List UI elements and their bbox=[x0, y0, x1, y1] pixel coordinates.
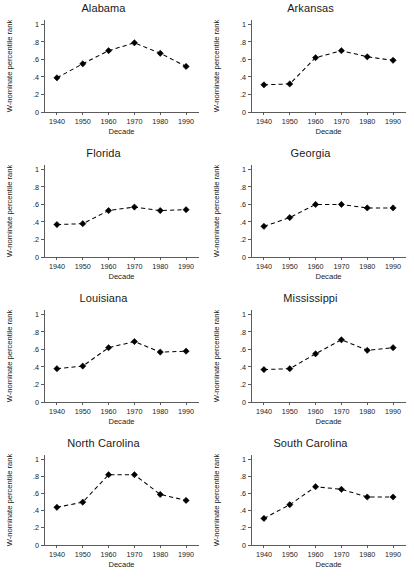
series-line bbox=[57, 207, 186, 225]
chart-panel: South Carolina0.2.4.6.811940195019601970… bbox=[207, 435, 414, 578]
y-tick-label: .6 bbox=[33, 55, 39, 64]
x-tick-label: 1960 bbox=[308, 262, 324, 271]
data-point-marker bbox=[338, 486, 344, 492]
data-point-marker bbox=[80, 221, 86, 227]
y-tick-label: 1 bbox=[35, 165, 39, 174]
x-tick-label: 1960 bbox=[101, 262, 117, 271]
y-tick-label: .4 bbox=[240, 218, 246, 227]
y-tick-label: .8 bbox=[33, 183, 39, 192]
x-tick-label: 1950 bbox=[75, 550, 91, 559]
y-tick-label: .6 bbox=[240, 55, 246, 64]
y-tick-label: .8 bbox=[33, 472, 39, 481]
y-axis-label: W-nominate percentile rank bbox=[5, 309, 14, 402]
y-tick-label: .6 bbox=[33, 200, 39, 209]
y-tick-label: 1 bbox=[35, 310, 39, 319]
series-line bbox=[264, 51, 393, 85]
x-tick-label: 1950 bbox=[282, 262, 298, 271]
x-tick-label: 1940 bbox=[256, 407, 272, 416]
plot-area: 0.2.4.6.81194019501960197019801990Decade… bbox=[0, 0, 207, 145]
y-tick-label: 1 bbox=[242, 310, 246, 319]
data-point-marker bbox=[183, 63, 189, 69]
chart-panel: Florida0.2.4.6.8119401950196019701980199… bbox=[0, 145, 207, 290]
data-point-marker bbox=[364, 494, 370, 500]
x-tick-label: 1970 bbox=[126, 117, 142, 126]
y-tick-label: .6 bbox=[33, 345, 39, 354]
data-point-marker bbox=[131, 204, 137, 210]
y-tick-label: .4 bbox=[240, 73, 246, 82]
x-tick-label: 1980 bbox=[359, 407, 375, 416]
data-point-marker bbox=[131, 472, 137, 478]
y-tick-label: .8 bbox=[33, 38, 39, 47]
series-line bbox=[264, 204, 393, 226]
x-axis-label: Decade bbox=[108, 127, 134, 136]
data-point-marker bbox=[80, 363, 86, 369]
x-tick-label: 1950 bbox=[282, 117, 298, 126]
x-tick-label: 1970 bbox=[333, 407, 349, 416]
plot-area: 0.2.4.6.81194019501960197019801990Decade… bbox=[0, 435, 207, 578]
y-tick-label: .4 bbox=[240, 506, 246, 515]
y-tick-label: 1 bbox=[242, 20, 246, 29]
y-axis-label: W-nominate percentile rank bbox=[212, 453, 221, 546]
data-point-marker bbox=[261, 82, 267, 88]
series-line bbox=[57, 475, 186, 508]
data-point-marker bbox=[54, 366, 60, 372]
x-tick-label: 1970 bbox=[126, 262, 142, 271]
x-tick-label: 1960 bbox=[308, 407, 324, 416]
series-line bbox=[57, 43, 186, 78]
x-axis-label: Decade bbox=[108, 560, 134, 569]
chart-panel: North Carolina0.2.4.6.811940195019601970… bbox=[0, 435, 207, 578]
x-tick-label: 1990 bbox=[178, 117, 194, 126]
y-axis-label: W-nominate percentile rank bbox=[5, 164, 14, 257]
series-line bbox=[264, 340, 393, 370]
data-point-marker bbox=[80, 61, 86, 67]
y-tick-label: .8 bbox=[240, 183, 246, 192]
data-point-marker bbox=[338, 337, 344, 343]
data-point-marker bbox=[364, 205, 370, 211]
plot-area: 0.2.4.6.81194019501960197019801990Decade… bbox=[207, 290, 414, 435]
y-tick-label: 1 bbox=[35, 455, 39, 464]
small-multiples-figure: Alabama0.2.4.6.8119401950196019701980199… bbox=[0, 0, 414, 578]
x-tick-label: 1960 bbox=[101, 550, 117, 559]
y-tick-label: .4 bbox=[33, 506, 39, 515]
chart-panel: Alabama0.2.4.6.8119401950196019701980199… bbox=[0, 0, 207, 145]
x-tick-label: 1940 bbox=[49, 407, 65, 416]
y-tick-label: 1 bbox=[35, 20, 39, 29]
y-tick-label: .2 bbox=[33, 90, 39, 99]
y-tick-label: 0 bbox=[35, 541, 39, 550]
y-axis-label: W-nominate percentile rank bbox=[212, 19, 221, 112]
data-point-marker bbox=[105, 48, 111, 54]
y-tick-label: .6 bbox=[33, 489, 39, 498]
plot-area: 0.2.4.6.81194019501960197019801990Decade… bbox=[0, 145, 207, 290]
y-tick-label: 0 bbox=[242, 108, 246, 117]
data-point-marker bbox=[287, 502, 293, 508]
data-point-marker bbox=[390, 494, 396, 500]
y-tick-label: .6 bbox=[240, 200, 246, 209]
x-axis-label: Decade bbox=[315, 272, 341, 281]
x-tick-label: 1960 bbox=[101, 117, 117, 126]
x-tick-label: 1950 bbox=[282, 550, 298, 559]
data-point-marker bbox=[54, 221, 60, 227]
x-axis-label: Decade bbox=[315, 417, 341, 426]
y-tick-label: .4 bbox=[33, 218, 39, 227]
y-axis-label: W-nominate percentile rank bbox=[5, 19, 14, 112]
y-tick-label: 1 bbox=[242, 455, 246, 464]
data-point-marker bbox=[312, 351, 318, 357]
x-tick-label: 1940 bbox=[49, 550, 65, 559]
x-tick-label: 1950 bbox=[282, 407, 298, 416]
x-tick-label: 1990 bbox=[178, 262, 194, 271]
data-point-marker bbox=[105, 207, 111, 213]
x-tick-label: 1990 bbox=[385, 550, 401, 559]
x-tick-label: 1940 bbox=[256, 117, 272, 126]
y-tick-label: .2 bbox=[240, 380, 246, 389]
y-tick-label: .8 bbox=[33, 328, 39, 337]
data-point-marker bbox=[390, 57, 396, 63]
chart-panel: Louisiana0.2.4.6.81194019501960197019801… bbox=[0, 290, 207, 435]
y-tick-label: 0 bbox=[35, 108, 39, 117]
y-axis-label: W-nominate percentile rank bbox=[212, 309, 221, 402]
x-tick-label: 1990 bbox=[385, 117, 401, 126]
data-point-marker bbox=[312, 201, 318, 207]
x-axis-label: Decade bbox=[108, 417, 134, 426]
x-axis-label: Decade bbox=[315, 560, 341, 569]
y-tick-label: .2 bbox=[240, 90, 246, 99]
data-point-marker bbox=[261, 223, 267, 229]
